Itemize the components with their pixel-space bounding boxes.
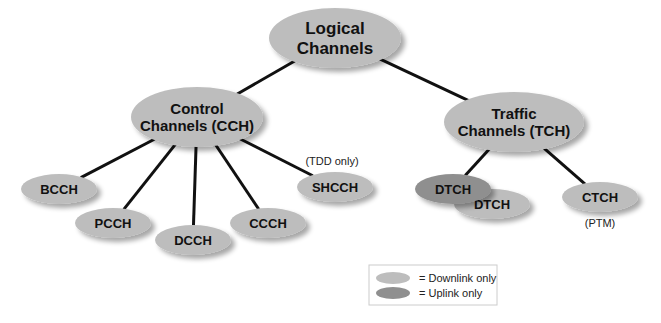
edge-tch-ctch [543, 148, 585, 184]
node-label-ctch: CTCH [582, 190, 618, 205]
edge-cch-shcch [239, 138, 313, 176]
legend-swatch-downlink [376, 272, 410, 284]
edge-logical-tch [379, 58, 470, 100]
edge-tch-dtch_up [465, 149, 490, 176]
node-label-dtch-up: DTCH [435, 182, 471, 197]
node-label-tch: Traffic [491, 105, 536, 122]
node-bcch: BCCH [21, 174, 97, 204]
node-label-ccch: CCCH [249, 216, 287, 231]
node-logical: LogicalChannels [269, 8, 401, 68]
node-label-bcch: BCCH [40, 182, 78, 197]
edge-logical-cch [236, 60, 296, 94]
legend-box [369, 265, 497, 305]
nodes-group: LogicalChannelsControlChannels (CCH)Traf… [21, 8, 638, 255]
node-cch: ControlChannels (CCH) [131, 87, 263, 147]
node-label-cch: Control [170, 100, 223, 117]
node-label-pcch: PCCH [95, 216, 132, 231]
node-dtch-up: DTCH [415, 174, 491, 204]
node-pcch: PCCH [75, 208, 151, 238]
node-tch: TrafficChannels (TCH) [444, 92, 584, 152]
node-label-shcch: SHCCH [312, 180, 358, 195]
node-ccch: CCCH [230, 208, 306, 238]
edge-cch-bcch [81, 138, 156, 177]
node-label-cch: Channels (CCH) [140, 117, 254, 134]
legend-label-downlink: = Downlink only [419, 272, 497, 284]
logical-channels-diagram: LogicalChannelsControlChannels (CCH)Traf… [0, 0, 661, 323]
legend: = Downlink only = Uplink only [369, 265, 497, 305]
edge-cch-pcch [124, 144, 176, 210]
legend-label-uplink: = Uplink only [419, 287, 483, 299]
edge-cch-dcch [193, 145, 196, 225]
edge-cch-ccch [215, 144, 259, 209]
node-label-logical: Channels [297, 39, 374, 58]
node-label-logical: Logical [305, 19, 365, 38]
note-ptm: (PTM) [585, 217, 616, 229]
node-shcch: SHCCH [297, 172, 373, 202]
node-dcch: DCCH [155, 225, 231, 255]
node-ctch: CTCH [562, 182, 638, 212]
legend-swatch-uplink [376, 287, 410, 299]
node-label-dcch: DCCH [174, 233, 212, 248]
note-tdd-only: (TDD only) [305, 155, 358, 167]
node-label-tch: Channels (TCH) [458, 122, 571, 139]
